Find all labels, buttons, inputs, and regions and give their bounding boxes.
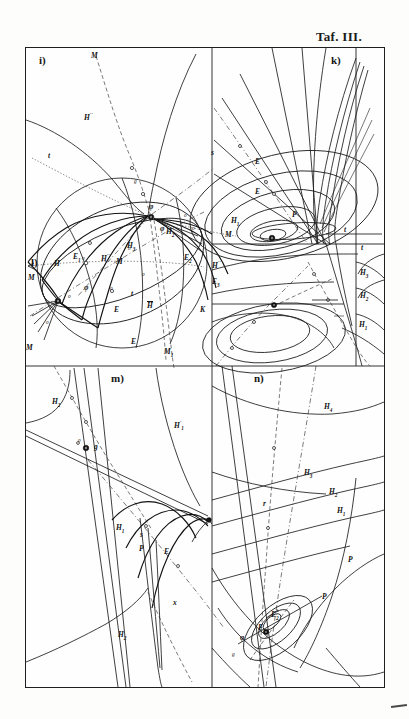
label-l-H-bar: H: [147, 301, 153, 310]
label-i-point-o-2: o: [110, 286, 113, 291]
plate-title: Taf. III.: [316, 29, 362, 45]
label-i-E-right2: E3: [212, 278, 220, 288]
label-l-phi: φ: [84, 284, 88, 292]
label-m-P: P: [139, 545, 144, 553]
label-m-s: s: [140, 531, 143, 539]
plate-frame: .s { fill:none; stroke:#1d1d1d; stroke-w…: [25, 47, 385, 688]
label-n-E2: E2: [271, 611, 279, 621]
label-l-M-lower: M: [26, 344, 33, 352]
label-strip-H3: H3: [360, 269, 368, 279]
label-k-phi: φ: [160, 225, 164, 233]
label-m-H-bottom: H2: [118, 631, 126, 641]
sheet-edge-mark: [391, 704, 407, 708]
label-i-M-left: M: [28, 274, 35, 282]
panel-caption-k: k): [331, 54, 341, 66]
label-i-K-right: K: [200, 306, 205, 314]
label-i-H-mid: H'': [101, 253, 110, 262]
label-i-M-right: M: [225, 231, 232, 239]
label-i-g-node: g: [134, 179, 137, 184]
label-k-point-o-1: o: [184, 213, 187, 218]
label-i-point-o-1: o: [82, 256, 85, 261]
plate-page: Taf. III. .s { fill:none; stroke:#1d1d1d…: [0, 0, 409, 719]
label-n-P-upper: P: [322, 593, 327, 601]
label-l-point-o-4: o: [142, 272, 145, 277]
label-l-H: H: [54, 260, 60, 268]
label-n-g: g: [232, 652, 235, 657]
label-l-M-upper: M: [116, 258, 123, 266]
label-i-t-left: t: [48, 152, 50, 160]
plate-linework: .s { fill:none; stroke:#1d1d1d; stroke-w…: [26, 48, 384, 687]
label-k-E-inner: E: [255, 188, 260, 196]
label-n-r: r: [263, 500, 266, 508]
label-n-H1: H1: [337, 507, 345, 517]
label-k-H2: H2: [166, 228, 174, 238]
label-i-H-right: H'': [212, 260, 221, 269]
label-i-M-bottom: M1: [164, 348, 173, 358]
label-n-phi: φ: [240, 634, 244, 642]
label-k-point-o-2: o: [192, 226, 195, 231]
label-strip-H1: H1: [359, 321, 367, 331]
label-i-M-top: M: [91, 52, 98, 60]
label-k-t: t: [344, 226, 346, 234]
panel-caption-l: l): [31, 256, 38, 268]
label-n-H4: H4: [324, 403, 332, 413]
panel-caption-m: m): [111, 372, 124, 384]
label-i-H-upper: H'': [84, 112, 93, 121]
label-l-point-o-2: o: [68, 294, 71, 299]
label-l-point-o-3: o: [128, 246, 131, 251]
panel-caption-n: n): [254, 372, 264, 384]
label-k-P: P: [292, 211, 297, 219]
label-n-E1: E1: [258, 624, 266, 634]
label-l-t: t: [131, 290, 133, 298]
panel-caption-i: i): [39, 54, 46, 66]
label-m-H1prime: H'1: [174, 420, 184, 431]
label-n-H3: H3: [304, 469, 312, 479]
label-i-E-left: E1: [73, 253, 81, 263]
label-i-E-right: E2: [184, 254, 192, 264]
label-l-point-o-1: o: [46, 320, 49, 325]
label-k-H1: H1: [231, 217, 239, 227]
label-k-E-outer: E: [255, 158, 260, 166]
label-i-s-right: s: [211, 149, 214, 157]
label-strip-t: t: [361, 244, 363, 252]
label-m-point-o: o: [78, 438, 81, 443]
label-m-x: x: [173, 599, 177, 607]
label-m-H2: H2: [52, 398, 60, 408]
label-m-E: E: [164, 548, 169, 556]
label-m-g: g: [94, 443, 98, 451]
label-strip-H2: H2: [360, 292, 368, 302]
label-l-E-outer: E: [114, 306, 119, 314]
label-m-H1: H1: [116, 524, 124, 534]
label-i-node-phi: φ: [149, 203, 153, 211]
label-l-E-inner: E: [131, 338, 136, 346]
label-n-H2: H2: [329, 488, 337, 498]
label-n-P: P: [348, 556, 353, 564]
